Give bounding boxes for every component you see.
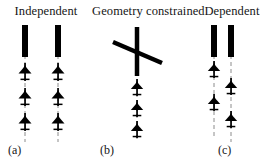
aircraft-left-3 <box>19 113 32 131</box>
panel-c-graphic <box>188 0 276 165</box>
aircraft-right-2 <box>52 88 65 106</box>
panel-c-caption: (c) <box>218 143 231 157</box>
aircraft-left-1 <box>19 63 32 81</box>
runway-configuration-figure: Independent <box>0 0 276 165</box>
panel-b-graphic <box>92 0 188 165</box>
aircraft-left-2 <box>208 94 220 111</box>
panel-a-caption: (a) <box>8 143 21 157</box>
aircraft-right-1 <box>225 78 237 95</box>
aircraft-center-1 <box>131 79 143 96</box>
panel-dependent: Dependent <box>188 0 276 165</box>
aircraft-right-3 <box>52 113 65 131</box>
panel-b-caption: (b) <box>100 143 114 157</box>
panel-geometry-constrained: Geometry constrained <box>92 0 188 165</box>
aircraft-right-2 <box>225 111 237 128</box>
aircraft-right-1 <box>52 63 65 81</box>
panel-a-graphic <box>0 0 92 165</box>
aircraft-left-1 <box>208 61 220 78</box>
aircraft-left-2 <box>19 88 32 106</box>
aircraft-center-2 <box>131 100 143 117</box>
panel-independent: Independent <box>0 0 92 165</box>
aircraft-center-3 <box>131 121 143 138</box>
